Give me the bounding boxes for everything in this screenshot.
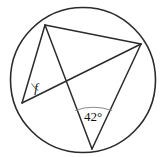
chord-top-left-to-bottom [45,25,92,149]
angle-label-42: 42° [84,109,102,124]
chord-left-to-right [22,44,141,103]
geometry-canvas: f 42° [0,0,166,157]
geometry-figure: f 42° [0,0,166,157]
circle-outline [11,8,156,153]
angle-label-f: f [34,80,40,95]
chord-right-to-bottom [92,44,141,149]
chord-top-left-to-right [45,25,141,44]
